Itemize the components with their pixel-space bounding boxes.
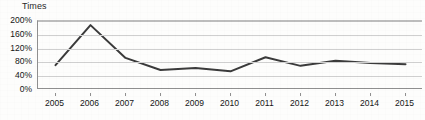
gridline <box>38 49 422 50</box>
x-tick-mark <box>335 93 336 96</box>
x-tick-mark <box>230 93 231 96</box>
x-axis-tick-labels: 2005200620072008200920102011201220132014… <box>37 93 422 109</box>
gridline <box>38 21 422 22</box>
x-tick-label: 2013 <box>325 98 344 108</box>
x-tick-label: 2009 <box>185 98 204 108</box>
x-tick-mark <box>160 93 161 96</box>
gridline <box>38 35 422 36</box>
y-tick-label: 80% <box>15 56 32 66</box>
y-axis-tick-labels: 0%40%80%120%160%200% <box>0 20 34 89</box>
y-tick-label: 200% <box>10 15 32 25</box>
x-tick-label: 2011 <box>255 98 273 108</box>
x-tick-label: 2010 <box>220 98 239 108</box>
y-tick-label: 120% <box>10 43 32 53</box>
x-tick-label: 2015 <box>395 98 414 108</box>
y-tick-label: 160% <box>10 29 32 39</box>
y-tick-label: 40% <box>15 70 32 80</box>
x-tick-mark <box>265 93 266 96</box>
y-tick-label: 0% <box>20 84 32 94</box>
x-tick-mark <box>125 93 126 96</box>
x-tick-label: 2008 <box>150 98 169 108</box>
x-tick-mark <box>370 93 371 96</box>
x-tick-label: 2014 <box>360 98 379 108</box>
gridline <box>38 76 422 77</box>
x-tick-label: 2007 <box>115 98 134 108</box>
chart-screenshot: Times 0%40%80%120%160%200% 2005200620072… <box>0 0 425 120</box>
x-tick-label: 2006 <box>80 98 99 108</box>
y-axis-title: Times <box>22 1 47 11</box>
x-tick-label: 2005 <box>45 98 64 108</box>
x-tick-mark <box>90 93 91 96</box>
x-tick-mark <box>300 93 301 96</box>
x-tick-mark <box>405 93 406 96</box>
line-series <box>38 21 423 90</box>
gridline <box>38 62 422 63</box>
x-tick-mark <box>195 93 196 96</box>
plot-area <box>37 20 422 89</box>
x-tick-mark <box>55 93 56 96</box>
x-tick-label: 2012 <box>290 98 309 108</box>
